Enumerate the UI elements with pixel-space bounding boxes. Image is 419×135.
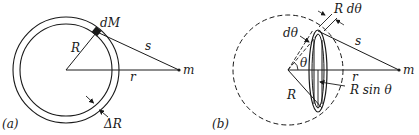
panel-a-label: (a) xyxy=(2,117,19,131)
label-m: m xyxy=(183,63,194,77)
label-delta-r: ΔR xyxy=(103,117,122,131)
label-theta: θ xyxy=(300,56,308,70)
label-m-b: m xyxy=(403,63,414,77)
label-r-b: r xyxy=(352,70,359,84)
arc-width-arrow-2 xyxy=(336,20,344,25)
label-s: s xyxy=(145,39,151,53)
label-r-sin-theta: R sin θ xyxy=(349,83,392,97)
panel-a: dM R s r m ΔR (a) xyxy=(2,16,194,131)
theta-arc xyxy=(294,62,298,70)
thickness-arrow-outer xyxy=(100,110,109,117)
point-mass-m xyxy=(177,68,180,71)
label-r-dtheta: R dθ xyxy=(333,2,363,16)
label-dm: dM xyxy=(100,16,121,30)
panel-b-label: (b) xyxy=(212,117,229,131)
s-line xyxy=(97,32,179,70)
label-r: r xyxy=(130,70,137,84)
panel-b: R dθ dθ θ R R sin θ s r m (b) xyxy=(212,2,414,131)
shell-gravitation-diagram: dM R s r m ΔR (a) xyxy=(0,0,419,135)
label-radius-r-b: R xyxy=(286,88,296,102)
point-mass-m-b xyxy=(397,68,400,71)
label-s-b: s xyxy=(355,34,361,48)
arc-width-arrow-1 xyxy=(318,11,325,15)
label-dtheta: dθ xyxy=(283,26,299,40)
thickness-arrow-inner xyxy=(86,96,94,103)
label-radius-r: R xyxy=(70,41,80,55)
